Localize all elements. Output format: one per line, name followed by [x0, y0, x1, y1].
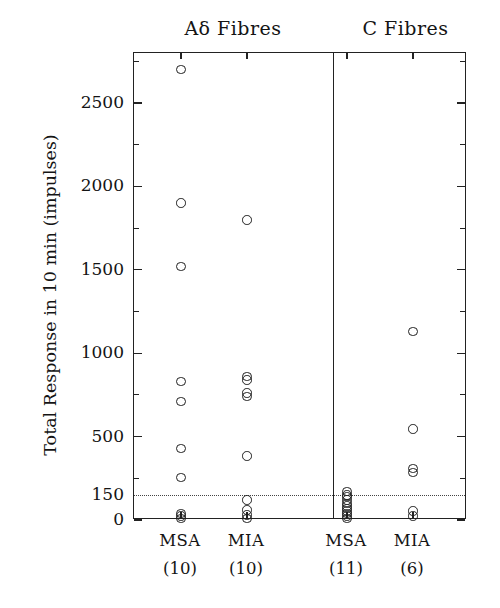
x-group-name: MIA — [367, 531, 457, 550]
data-point — [176, 262, 186, 272]
y-tick-minor — [460, 478, 465, 479]
y-tick-minor — [134, 144, 139, 145]
x-tick — [412, 53, 413, 59]
plot-area — [133, 52, 466, 519]
y-tick-major — [457, 353, 465, 354]
y-tick-major — [134, 102, 142, 103]
data-point — [242, 215, 252, 225]
y-tick-label: 1500 — [0, 259, 124, 279]
y-tick-major — [457, 436, 465, 437]
y-tick-major — [457, 102, 465, 103]
data-point — [408, 511, 418, 521]
x-group-mia-1: MIA(10) — [201, 531, 291, 578]
y-tick-minor — [134, 311, 139, 312]
y-tick-label: 0 — [0, 509, 124, 529]
data-point — [242, 495, 252, 505]
y-tick-label: 2000 — [0, 175, 124, 195]
x-tick — [246, 53, 247, 59]
y-tick-major — [134, 519, 142, 520]
y-tick-major — [134, 186, 142, 187]
x-group-count: (6) — [367, 559, 457, 578]
y-tick-major — [134, 353, 142, 354]
y-tick-major — [457, 269, 465, 270]
y-tick-minor — [460, 228, 465, 229]
data-point — [176, 65, 186, 75]
data-point — [176, 444, 186, 454]
data-point — [342, 514, 352, 524]
data-point — [176, 473, 186, 483]
x-group-count: (10) — [201, 559, 291, 578]
y-tick-minor — [134, 478, 139, 479]
y-tick-minor — [460, 394, 465, 395]
data-point — [242, 514, 252, 524]
y-tick-major — [457, 519, 465, 520]
y-tick-minor — [460, 311, 465, 312]
data-point — [176, 198, 186, 208]
y-tick-label: 500 — [0, 426, 124, 446]
y-tick-major — [134, 269, 142, 270]
y-tick-label: 2500 — [0, 92, 124, 112]
data-point — [242, 375, 252, 385]
y-tick-minor — [460, 144, 465, 145]
data-point — [408, 327, 418, 337]
x-tick — [180, 53, 181, 59]
data-point — [176, 397, 186, 407]
y-tick-major — [134, 436, 142, 437]
y-tick-label: 1000 — [0, 342, 124, 362]
y-tick-minor — [134, 228, 139, 229]
data-point — [408, 468, 418, 478]
x-group-mia-3: MIA(6) — [367, 531, 457, 578]
data-point — [242, 451, 252, 461]
panel-title-adelta: Aδ Fibres — [133, 17, 333, 39]
panel-title-c: C Fibres — [333, 17, 478, 39]
y-tick-label: 150 — [0, 484, 124, 504]
data-point — [176, 377, 186, 387]
panel-divider — [333, 53, 334, 518]
y-tick-major — [457, 186, 465, 187]
threshold-reference-line — [134, 495, 465, 496]
data-point — [242, 392, 252, 402]
data-point — [408, 424, 418, 434]
y-tick-minor — [134, 394, 139, 395]
y-tick-minor — [134, 61, 139, 62]
x-tick — [346, 53, 347, 59]
y-tick-minor — [460, 61, 465, 62]
x-group-name: MIA — [201, 531, 291, 550]
data-point — [176, 514, 186, 524]
scatter-plot-figure: Aδ Fibres C Fibres Total Response in 10 … — [0, 0, 500, 608]
